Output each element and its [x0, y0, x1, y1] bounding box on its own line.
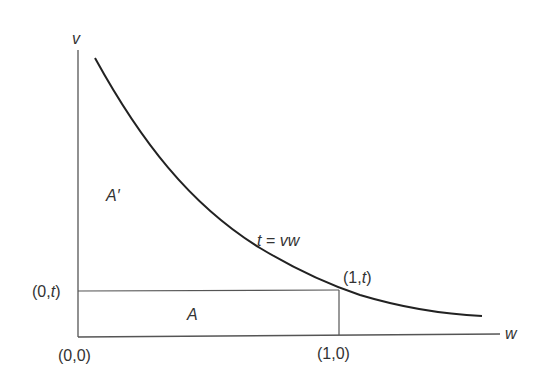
curve-equation-label: t = vw	[257, 232, 301, 249]
point-label-0-t: (0,t)	[32, 283, 60, 300]
point-label-1-0: (1,0)	[317, 345, 350, 362]
v-axis-label: v	[72, 30, 81, 47]
w-axis-label: w	[505, 325, 518, 342]
w-axis	[78, 334, 500, 337]
region-a-label: A	[186, 306, 198, 323]
curve-t-equals-vw	[95, 58, 482, 316]
point-label-1-t: (1,t)	[343, 269, 371, 286]
point-label-origin: (0,0)	[58, 347, 91, 364]
t-level-line	[78, 290, 339, 291]
diagram-canvas: v w A′ A t = vw (0,t) (1,t) (0,0) (1,0)	[0, 0, 545, 386]
region-a-prime-label: A′	[105, 187, 121, 204]
